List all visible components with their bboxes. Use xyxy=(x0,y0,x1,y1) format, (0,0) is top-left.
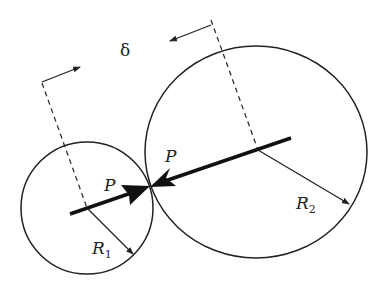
radius1-letter: R xyxy=(91,238,105,258)
dashed-line-left xyxy=(42,83,87,208)
center-line-right xyxy=(165,138,291,181)
large-circle xyxy=(145,46,367,258)
radius1-subscript: 1 xyxy=(105,248,112,261)
delta-arrow-left xyxy=(42,67,80,82)
delta-arrow-right xyxy=(170,25,211,41)
radius2-subscript: 2 xyxy=(309,203,316,216)
delta-label: δ xyxy=(120,40,130,60)
contact-diagram: δ P P R1 R2 xyxy=(0,0,385,295)
dashed-line-right xyxy=(211,20,258,150)
force-label-left: P xyxy=(103,175,116,195)
force-label-right: P xyxy=(164,146,177,166)
radius2-label: R2 xyxy=(295,193,316,216)
radius1-label: R1 xyxy=(91,238,112,261)
radius2-letter: R xyxy=(295,193,309,213)
